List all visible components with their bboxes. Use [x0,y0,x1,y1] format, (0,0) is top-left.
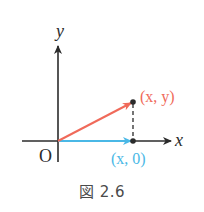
origin-label: O [39,146,52,166]
point-x0-dot [130,138,136,144]
point-xy-dot [130,99,136,105]
figure-caption: 図 2.6 [0,180,204,201]
point-x0-label: (x, 0) [111,150,146,168]
point-xy-label: (x, y) [140,88,175,106]
vector-projection-figure: y x O (x, y) (x, 0) 図 2.6 [0,0,204,212]
x-axis-label: x [174,130,183,150]
y-axis-label: y [54,21,64,41]
vector-to-xy [58,103,131,141]
